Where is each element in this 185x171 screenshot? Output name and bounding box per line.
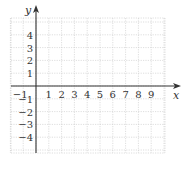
y-tick-label: −1 xyxy=(18,94,33,105)
x-tick-label: 7 xyxy=(122,89,128,100)
y-axis-label: y xyxy=(24,4,32,17)
x-tick-label: 4 xyxy=(84,89,90,100)
coordinate-grid: x y −11234567894321−1−2−3−4 xyxy=(0,0,185,171)
x-tick-label: 5 xyxy=(97,89,103,100)
x-tick-label: 2 xyxy=(58,89,64,100)
x-tick-label: 9 xyxy=(148,89,154,100)
y-tick-label: 2 xyxy=(27,55,33,66)
x-tick-label: 8 xyxy=(135,89,141,100)
y-tick-label: −3 xyxy=(18,119,33,130)
axes: x y xyxy=(11,4,181,153)
x-tick-label: 6 xyxy=(110,89,116,100)
y-tick-label: 3 xyxy=(27,43,33,54)
x-tick-label: 3 xyxy=(71,89,77,100)
x-tick-label: 1 xyxy=(46,89,52,100)
x-axis-label: x xyxy=(173,89,180,102)
y-tick-label: −2 xyxy=(18,107,33,118)
y-tick-label: −4 xyxy=(18,132,33,143)
y-tick-label: 1 xyxy=(27,68,33,79)
y-tick-label: 4 xyxy=(27,30,33,41)
